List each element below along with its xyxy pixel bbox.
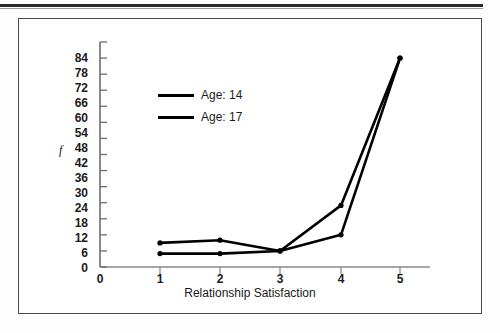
data-point — [277, 248, 282, 253]
data-point — [217, 251, 222, 256]
data-point — [157, 251, 162, 256]
data-series-2 — [157, 55, 402, 256]
x-tick-marks — [160, 267, 400, 274]
data-series-group — [157, 55, 402, 256]
series-line — [160, 58, 400, 254]
data-point — [397, 55, 402, 60]
data-series-1 — [157, 55, 402, 253]
series-line — [160, 58, 400, 251]
figure-page: f 0 6 12 18 24 30 36 42 48 54 60 66 72 7… — [0, 0, 500, 333]
chart-canvas — [0, 0, 500, 333]
y-tick-marks — [100, 42, 107, 267]
data-point — [338, 203, 343, 208]
data-point — [217, 238, 222, 243]
data-point — [338, 232, 343, 237]
axes-group — [100, 42, 430, 274]
data-point — [157, 240, 162, 245]
